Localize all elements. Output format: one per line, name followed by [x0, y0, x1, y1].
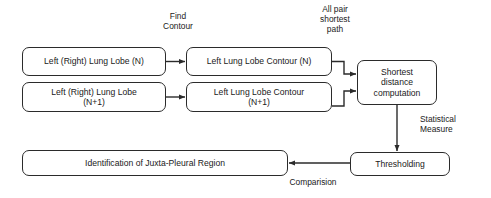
edge-contour-n1-to-shortest [332, 91, 356, 106]
node-left-right-lung-lobe-n-plus-1[interactable]: Left (Right) Lung Lobe (N+1) [22, 82, 166, 112]
node-shortest-distance-computation[interactable]: Shortest distance computation [357, 60, 437, 105]
edge-label-comparision: Comparision [278, 177, 348, 187]
flowchart-canvas: Left (Right) Lung Lobe (N) Left (Right) … [0, 0, 491, 198]
node-left-right-lung-lobe-n[interactable]: Left (Right) Lung Lobe (N) [22, 47, 166, 76]
edge-label-all-pair-shortest-path: All pair shortest path [300, 4, 370, 34]
node-left-lung-lobe-contour-n-plus-1[interactable]: Left Lung Lobe Contour (N+1) [186, 82, 332, 112]
edge-label-find-contour: Find Contour [142, 11, 214, 31]
edge-contour-n-to-shortest [332, 62, 356, 75]
node-identification-of-juxta-pleural-region[interactable]: Identification of Juxta-Pleural Region [22, 150, 288, 176]
node-thresholding[interactable]: Thresholding [350, 152, 450, 176]
node-left-lung-lobe-contour-n[interactable]: Left Lung Lobe Contour (N) [186, 47, 332, 76]
edge-label-statistical-measure: Statistical Measure [420, 114, 486, 134]
